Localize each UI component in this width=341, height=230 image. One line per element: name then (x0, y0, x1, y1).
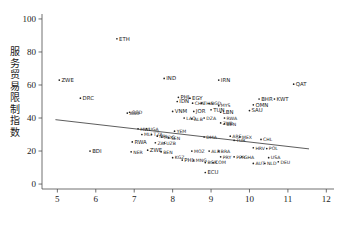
point-marker (154, 142, 156, 144)
point-marker (249, 110, 251, 112)
regression-line-group (55, 120, 309, 149)
point-marker (163, 142, 165, 144)
point-marker (266, 148, 268, 150)
x-tick-label: 10 (245, 194, 255, 204)
point-label: ALB (194, 117, 203, 122)
point-marker (183, 117, 185, 119)
point-label: DEU (280, 160, 290, 165)
point-marker (277, 161, 279, 163)
point-marker (58, 79, 60, 81)
point-marker (241, 156, 243, 158)
point-label: CHL (263, 137, 273, 142)
data-point: ETH (116, 36, 130, 42)
point-label: COM (215, 160, 226, 165)
point-marker (147, 149, 149, 151)
point-marker (168, 137, 170, 139)
point-label: ECU (207, 169, 218, 175)
point-marker (141, 134, 143, 136)
chart-figure: 服 务 贸 易 限 制 指 数 020406080100 56789101112… (0, 0, 341, 230)
data-point: ZWE (58, 77, 74, 83)
point-marker (201, 102, 203, 104)
regression-line (55, 120, 309, 149)
point-label: QAT (296, 81, 308, 87)
point-marker (193, 159, 195, 161)
point-marker (174, 130, 176, 132)
point-label: KWT (277, 96, 290, 102)
data-point: DRC (80, 95, 95, 101)
point-marker (131, 141, 133, 143)
point-label: MOZ (194, 149, 205, 154)
point-marker (203, 117, 205, 119)
data-point: VNM (172, 108, 188, 114)
point-marker (176, 101, 178, 103)
point-marker (193, 111, 195, 113)
point-label: AUT (255, 161, 265, 166)
data-point: JOR (193, 108, 206, 115)
point-label: UGA (149, 127, 160, 132)
data-point: LBN (220, 109, 234, 115)
point-marker (264, 163, 266, 165)
data-point: USA (268, 155, 281, 160)
point-marker (268, 157, 270, 159)
point-label: RWA (134, 139, 147, 145)
point-label: PRY (223, 155, 232, 160)
point-label: YEM (176, 129, 187, 134)
data-point: ECU (204, 169, 218, 175)
point-marker (89, 150, 91, 152)
data-point: HRV (252, 146, 265, 151)
data-point: GHA (241, 155, 255, 160)
plot-canvas: 020406080100 56789101112 ETHZWEDRCINDIRN… (0, 0, 341, 230)
point-label: KGZ (175, 155, 185, 160)
point-marker (212, 162, 214, 164)
point-marker (116, 38, 118, 40)
point-marker (208, 103, 210, 105)
y-tick-label: 40 (27, 113, 37, 123)
point-marker (161, 136, 163, 138)
point-label: ZWE (61, 77, 74, 83)
point-marker (160, 151, 162, 153)
data-point: BGD (208, 101, 222, 106)
point-marker (189, 97, 191, 99)
data-point: COM (212, 160, 226, 165)
point-marker (233, 156, 235, 158)
point-label: BEN (163, 150, 173, 155)
point-marker (224, 117, 226, 119)
data-point: BRA (218, 149, 231, 154)
point-marker (191, 150, 193, 152)
point-label: HRV (255, 146, 265, 151)
data-point: MOZ (191, 149, 205, 154)
point-label: IDN (179, 98, 189, 104)
point-label: GHA (244, 155, 255, 160)
x-tick-label: 12 (322, 194, 331, 204)
data-point: CHL (260, 137, 273, 142)
point-marker (203, 136, 205, 138)
point-marker (130, 151, 132, 153)
point-marker (210, 109, 212, 111)
point-marker (208, 150, 210, 152)
y-tick-label: 20 (27, 146, 37, 156)
point-label: IRN (221, 77, 230, 83)
point-marker (293, 83, 295, 85)
data-point: DMA (203, 135, 217, 140)
x-tick-label: 5 (55, 194, 60, 204)
point-marker (252, 104, 254, 106)
point-label: SAU (252, 107, 263, 113)
point-label: TUR (235, 138, 246, 143)
point-label: DZA (206, 116, 217, 121)
point-label: IND (166, 75, 176, 81)
point-marker (274, 98, 276, 100)
x-tick-label: 8 (170, 194, 175, 204)
point-marker (80, 97, 82, 99)
point-label: MLI (144, 132, 152, 137)
point-marker (156, 135, 158, 137)
point-marker (224, 123, 226, 125)
data-points-group: ETHZWEDRCINDIRNQATPHLEGYIDNCHNTHABGDMYSB… (58, 36, 307, 176)
point-marker (258, 98, 260, 100)
point-marker (146, 128, 148, 130)
y-tick-label: 0 (32, 179, 37, 189)
point-marker (204, 162, 206, 164)
x-tick-label: 9 (209, 194, 214, 204)
point-label: BRA (221, 149, 231, 154)
point-marker (260, 139, 262, 141)
point-marker (151, 134, 153, 136)
